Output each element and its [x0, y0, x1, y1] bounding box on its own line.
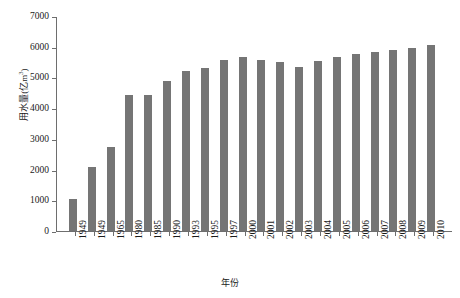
- x-axis-tick: [320, 232, 321, 236]
- x-axis-tick-label: 1965: [117, 220, 127, 239]
- x-axis-tick: [75, 232, 76, 236]
- x-axis-tick-label: 2007: [381, 220, 391, 239]
- y-axis-tick-label: 4000: [30, 104, 49, 114]
- y-axis-tick-label: 0: [44, 227, 49, 237]
- x-axis-tick-label: 2005: [343, 220, 353, 239]
- x-axis-tick-label: 2003: [305, 220, 315, 239]
- x-axis-tick: [113, 232, 114, 236]
- bar: [257, 60, 265, 231]
- x-axis-tick-label: 2004: [324, 220, 334, 239]
- x-axis-tick-label: 1995: [211, 220, 221, 239]
- y-axis-tick: [52, 232, 56, 233]
- x-axis-tick: [414, 232, 415, 236]
- x-axis-tick: [377, 232, 378, 236]
- x-axis-tick: [433, 232, 434, 236]
- plot-area: 01000200030004000500060007000 1949194919…: [56, 17, 452, 232]
- y-axis-title: 用水量(亿m3): [17, 30, 30, 160]
- bar: [352, 54, 360, 231]
- bar-chart: 用水量(亿m3) 01000200030004000500060007000 1…: [0, 0, 460, 298]
- x-axis-tick-label: 2008: [399, 220, 409, 239]
- bar: [220, 60, 228, 231]
- y-axis-tick-label: 6000: [30, 43, 49, 53]
- bar: [69, 199, 77, 231]
- bar: [182, 71, 190, 231]
- bar: [314, 61, 322, 231]
- bar: [333, 57, 341, 231]
- bar: [107, 147, 115, 231]
- bar: [144, 95, 152, 231]
- bar: [88, 167, 96, 231]
- x-axis-title: 年份: [0, 276, 460, 289]
- x-axis-tick-label: 1997: [230, 220, 240, 239]
- x-axis-tick: [263, 232, 264, 236]
- x-axis-tick-label: 1980: [135, 220, 145, 239]
- x-axis-tick-label: 2002: [286, 220, 296, 239]
- bar: [276, 62, 284, 231]
- x-axis-tick: [94, 232, 95, 236]
- bar: [295, 67, 303, 231]
- x-axis-tick: [358, 232, 359, 236]
- x-axis-tick: [301, 232, 302, 236]
- x-axis-tick-label: 2009: [418, 220, 428, 239]
- bar: [125, 95, 133, 231]
- y-axis-title-exponent: 3: [17, 71, 24, 74]
- bar: [163, 81, 171, 231]
- x-axis-tick: [150, 232, 151, 236]
- x-axis-tick-label: 2000: [249, 220, 259, 239]
- bar: [389, 50, 397, 231]
- bar: [408, 48, 416, 231]
- x-axis-tick: [282, 232, 283, 236]
- x-axis-tick-label: 2010: [437, 220, 447, 239]
- x-axis-tick: [188, 232, 189, 236]
- bar-series: [56, 17, 452, 231]
- x-axis-tick: [339, 232, 340, 236]
- y-axis-tick-label: 5000: [30, 74, 49, 84]
- y-axis-title-base: 用水量(亿m: [19, 75, 29, 121]
- x-axis-tick: [169, 232, 170, 236]
- bar: [239, 57, 247, 231]
- x-axis-tick-label: 1990: [173, 220, 183, 239]
- x-axis-tick: [131, 232, 132, 236]
- y-axis-tick-label: 3000: [30, 135, 49, 145]
- x-axis-tick-label: 1949: [79, 220, 89, 239]
- x-axis-tick-label: 1993: [192, 220, 202, 239]
- x-axis-tick: [226, 232, 227, 236]
- bar: [427, 45, 435, 231]
- y-axis-tick-label: 7000: [30, 12, 49, 22]
- bar: [371, 52, 379, 231]
- x-axis-tick-label: 2001: [267, 220, 277, 239]
- y-axis-title-tail: ): [19, 68, 29, 71]
- x-axis-tick-label: 1949: [98, 220, 108, 239]
- x-axis-tick-label: 2006: [362, 220, 372, 239]
- x-axis-tick-label: 1985: [154, 220, 164, 239]
- bar: [201, 68, 209, 231]
- x-axis-tick: [207, 232, 208, 236]
- x-axis-tick: [245, 232, 246, 236]
- y-axis-tick-label: 2000: [30, 166, 49, 176]
- x-axis-tick: [395, 232, 396, 236]
- y-axis-tick-label: 1000: [30, 197, 49, 207]
